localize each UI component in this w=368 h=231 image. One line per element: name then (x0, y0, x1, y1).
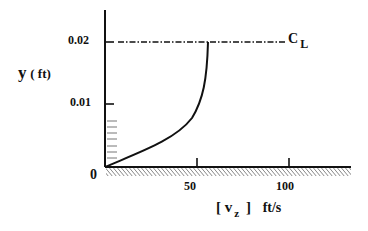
centerline-label-main: C (288, 31, 298, 46)
x-axis-title: [ vz ] ft/s (216, 199, 281, 216)
y-axis-title: y ( ft) (18, 63, 51, 83)
x-axis-symbol: [ v (216, 199, 232, 215)
y-axis-symbol: y (18, 63, 27, 82)
centerline-label-sub: L (300, 37, 308, 51)
centerline-label: CL (288, 31, 308, 47)
y-axis-unit: ( ft) (30, 66, 51, 81)
x-tick-label-50: 50 (184, 179, 196, 194)
velocity-profile-diagram (0, 0, 368, 231)
x-axis-bracket: ] (246, 199, 251, 215)
y-tick-label-0.02: 0.02 (68, 33, 89, 48)
origin-label: 0 (90, 167, 97, 183)
wall-shear-ticks (107, 121, 117, 158)
x-axis-subscript: z (234, 207, 239, 219)
x-tick-label-100: 100 (276, 179, 294, 194)
velocity-profile-curve (105, 42, 208, 167)
wall-hatching (106, 168, 351, 176)
y-tick-label-0.01: 0.01 (70, 95, 91, 110)
x-axis-unit: ft/s (263, 200, 282, 215)
